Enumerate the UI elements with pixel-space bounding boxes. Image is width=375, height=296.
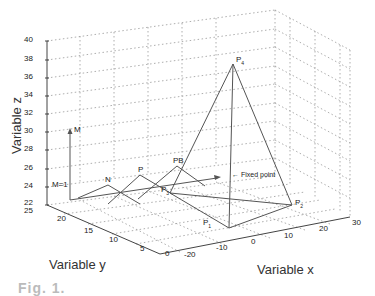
y-axis-title: Variable y [49,257,106,272]
z-tick-30: 30 [24,126,33,135]
label-n: N [105,175,111,184]
trajectory-arrow-icon [214,175,221,180]
x-tick-20: 20 [319,224,328,233]
label-m-equals-1: M=1 [52,180,68,189]
y-tick-25: 25 [24,206,33,215]
z-tick-24: 24 [24,181,33,190]
x-tick-0: 0 [251,237,255,246]
x-tick-neg20: -20 [184,250,196,259]
y-tick-5: 5 [140,244,144,253]
figure-caption: Fig. 1. [18,280,65,296]
label-pb: PB [173,156,184,165]
label-p: P [138,165,143,174]
label-m: M [74,125,81,134]
z-tick-40: 40 [24,35,33,44]
label-p3: P3 [161,185,169,196]
z-axis-title: Variable z [9,86,24,166]
label-p2-sub: 2 [300,203,303,209]
y-tick-20: 20 [57,214,66,223]
z-tick-28: 28 [24,144,33,153]
y-tick-0: 0 [165,249,169,258]
y-tick-10: 10 [109,235,118,244]
z-tick-36: 36 [24,72,33,81]
label-p2: P2 [295,198,303,209]
z-tick-32: 32 [24,108,33,117]
z-tick-38: 38 [24,54,33,63]
label-p1: P1 [203,218,211,229]
pyramid-series [170,64,292,228]
x-axis-title: Variable x [257,262,314,277]
y-tick-15: 15 [84,226,93,235]
label-p4: P4 [236,55,244,66]
x-tick-10: 10 [284,231,293,240]
x-tick-neg10: -10 [216,243,228,252]
label-fixed-point: ← Fixed point [232,171,275,178]
z-tick-34: 34 [24,90,33,99]
z-tick-26: 26 [24,163,33,172]
label-p1-sub: 1 [208,223,211,229]
axes [45,41,350,254]
label-p4-sub: 4 [241,60,244,66]
x-tick-30: 30 [352,218,361,227]
grid-back-wall [47,10,350,252]
label-p3-sub: 3 [166,190,169,196]
